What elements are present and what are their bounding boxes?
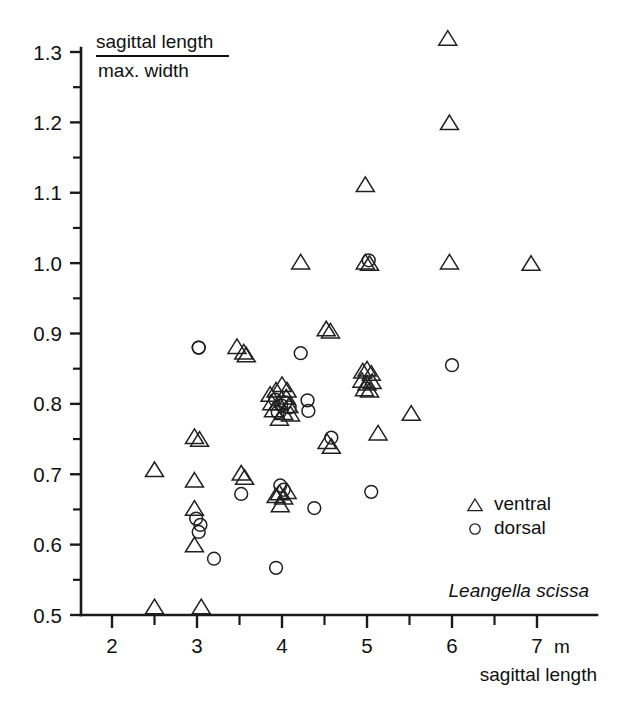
x-tick-label: 2: [106, 634, 118, 657]
plot-canvas: 0.50.60.70.80.91.01.11.21.3234567 sagitt…: [0, 0, 619, 712]
y-tick-label: 1.3: [33, 41, 62, 64]
series-ventral: [146, 31, 541, 614]
legend-label-dorsal: dorsal: [494, 517, 546, 538]
marker-ventral: [439, 31, 457, 46]
y-tick-label: 0.9: [33, 322, 62, 345]
y-label-denominator: max. width: [98, 60, 189, 81]
y-tick-label: 0.7: [33, 463, 62, 486]
y-tick-label: 0.5: [33, 604, 62, 627]
x-tick-label: 5: [361, 634, 373, 657]
scatter-plot-figure: 0.50.60.70.80.91.01.11.21.3234567 sagitt…: [0, 0, 619, 712]
marker-ventral: [317, 321, 335, 336]
x-tick-label: 6: [446, 634, 458, 657]
marker-ventral: [440, 254, 458, 269]
species-annotation: Leangella scissa: [449, 580, 589, 601]
legend-circle-icon: [470, 524, 480, 534]
y-axis-label: sagittal lengthmax. width: [96, 31, 229, 81]
y-tick-label: 1.0: [33, 252, 62, 275]
series-dorsal: [190, 254, 459, 574]
marker-ventral: [440, 115, 458, 130]
x-tick-label: 7: [531, 634, 543, 657]
x-axis-unit: m: [554, 636, 570, 657]
axes: 0.50.60.70.80.91.01.11.21.3234567: [33, 41, 597, 658]
y-tick-label: 1.1: [33, 181, 62, 204]
marker-dorsal: [270, 561, 283, 574]
x-tick-label: 4: [276, 634, 288, 657]
marker-dorsal: [208, 552, 221, 565]
marker-dorsal: [235, 488, 248, 501]
marker-dorsal: [446, 359, 459, 372]
legend-label-ventral: ventral: [494, 493, 551, 514]
y-tick-label: 0.6: [33, 533, 62, 556]
marker-ventral: [369, 425, 387, 440]
marker-dorsal: [294, 347, 307, 360]
marker-ventral: [292, 254, 310, 269]
marker-ventral: [146, 599, 164, 614]
marker-ventral: [402, 406, 420, 421]
marker-ventral: [185, 537, 203, 552]
x-tick-label: 3: [191, 634, 203, 657]
legend-triangle-icon: [468, 499, 482, 511]
marker-dorsal: [365, 485, 378, 498]
data-points: [146, 31, 541, 614]
legend: ventraldorsal: [468, 493, 551, 538]
marker-dorsal: [192, 526, 205, 539]
marker-ventral: [146, 462, 164, 477]
y-tick-label: 1.2: [33, 111, 62, 134]
y-label-numerator: sagittal length: [96, 31, 213, 52]
marker-ventral: [522, 256, 540, 271]
marker-ventral: [192, 599, 210, 614]
y-tick-label: 0.8: [33, 392, 62, 415]
marker-ventral: [185, 473, 203, 488]
marker-dorsal: [192, 341, 205, 354]
marker-ventral: [356, 177, 374, 192]
marker-ventral: [232, 466, 250, 481]
marker-dorsal: [308, 502, 321, 515]
species-name: Leangella scissa: [449, 580, 589, 601]
x-axis-title: sagittal length: [480, 664, 597, 685]
